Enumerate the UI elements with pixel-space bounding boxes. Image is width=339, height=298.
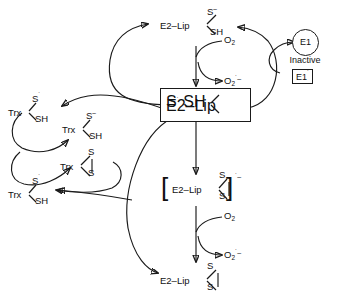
bond-bottom-bottom-disulfide [207, 281, 216, 290]
bond-lines-bottom-disulfide [0, 0, 339, 298]
bond-top-bottom-disulfide [207, 270, 216, 279]
reaction-scheme-diagram: E2–LipS–SH O2 O2˙– E1 Inactive E1˙ E2–Li… [0, 0, 339, 298]
